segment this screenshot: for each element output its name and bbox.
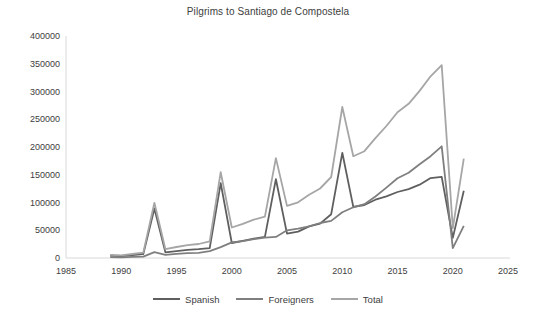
y-tick-label: 250000 [8,114,60,124]
legend-swatch-spanish [153,298,180,300]
legend-label: Foreigners [268,294,313,305]
y-tick-label: 150000 [8,170,60,180]
legend-item-total: Total [331,294,383,305]
chart-area: Pilgrims to Santiago de Compostela 05000… [0,0,536,318]
x-tick-label: 1995 [157,266,197,276]
legend-item-foreigners: Foreigners [236,294,313,305]
y-tick-label: 350000 [8,59,60,69]
y-tick-label: 0 [8,253,60,263]
legend-item-spanish: Spanish [153,294,219,305]
x-tick-label: 1990 [101,266,141,276]
y-tick-label: 200000 [8,142,60,152]
legend-swatch-foreigners [236,298,263,300]
y-tick-label: 100000 [8,198,60,208]
legend-swatch-total [331,298,358,300]
y-tick-label: 300000 [8,87,60,97]
y-tick-label: 50000 [8,225,60,235]
chart-legend: SpanishForeignersTotal [0,291,536,307]
x-tick-label: 2010 [322,266,362,276]
x-tick-label: 2005 [267,266,307,276]
legend-label: Spanish [185,294,219,305]
x-tick-label: 2015 [378,266,418,276]
x-tick-label: 2025 [488,266,528,276]
x-tick-label: 1985 [46,266,86,276]
x-tick-label: 2020 [433,266,473,276]
legend-label: Total [363,294,383,305]
x-tick-label: 2000 [212,266,252,276]
total-line [110,65,464,255]
y-tick-label: 400000 [8,31,60,41]
